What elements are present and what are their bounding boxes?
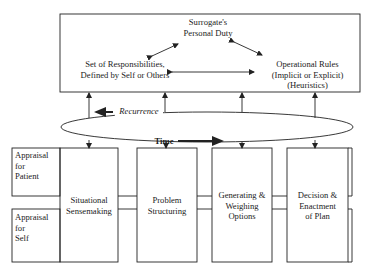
- line: Self: [15, 233, 59, 244]
- line: Surrogate's: [158, 17, 258, 28]
- line: Decision &: [287, 190, 348, 201]
- line: Defined by Self or Others: [62, 70, 188, 81]
- responsibilities-label: Set of Responsibilities, Defined by Self…: [62, 59, 188, 80]
- line: Structuring: [137, 206, 197, 217]
- line: Sensemaking: [60, 206, 118, 217]
- stage-situational-sensemaking: Situational Sensemaking: [60, 195, 118, 216]
- line: (Implicit or Explicit): [255, 70, 360, 81]
- stage-problem-structuring: Problem Structuring: [137, 195, 197, 216]
- line: Appraisal: [15, 212, 59, 223]
- line: Enactment: [287, 201, 348, 212]
- time-label: Time: [150, 136, 178, 147]
- personal-duty-label: Surrogate's Personal Duty: [158, 17, 258, 38]
- line: for: [15, 161, 59, 172]
- line: Problem: [137, 195, 197, 206]
- line: of Plan: [287, 211, 348, 222]
- recurrence-arrow-icon: [94, 107, 106, 117]
- line: Appraisal: [15, 150, 59, 161]
- appraisal-patient-label: Appraisal for Patient: [15, 150, 59, 182]
- line: Situational: [60, 195, 118, 206]
- line: Patient: [15, 171, 59, 182]
- recurrence-label: Recurrence: [115, 106, 163, 117]
- line: Weighing: [212, 201, 272, 212]
- duty-responsibilities-arrow: [152, 44, 178, 56]
- line: Operational Rules: [255, 59, 360, 70]
- duty-rules-arrow: [234, 42, 262, 55]
- appraisal-self-label: Appraisal for Self: [15, 212, 59, 244]
- line: Personal Duty: [158, 28, 258, 39]
- line: (Heuristics): [255, 80, 360, 91]
- stage-generating-options: Generating & Weighing Options: [212, 190, 272, 222]
- line: Set of Responsibilities,: [62, 59, 188, 70]
- line: Options: [212, 211, 272, 222]
- line: Generating &: [212, 190, 272, 201]
- operational-rules-label: Operational Rules (Implicit or Explicit)…: [255, 59, 360, 91]
- stage-decision-enactment: Decision & Enactment of Plan: [287, 190, 348, 222]
- line: for: [15, 223, 59, 234]
- time-arrow-icon: [212, 136, 224, 146]
